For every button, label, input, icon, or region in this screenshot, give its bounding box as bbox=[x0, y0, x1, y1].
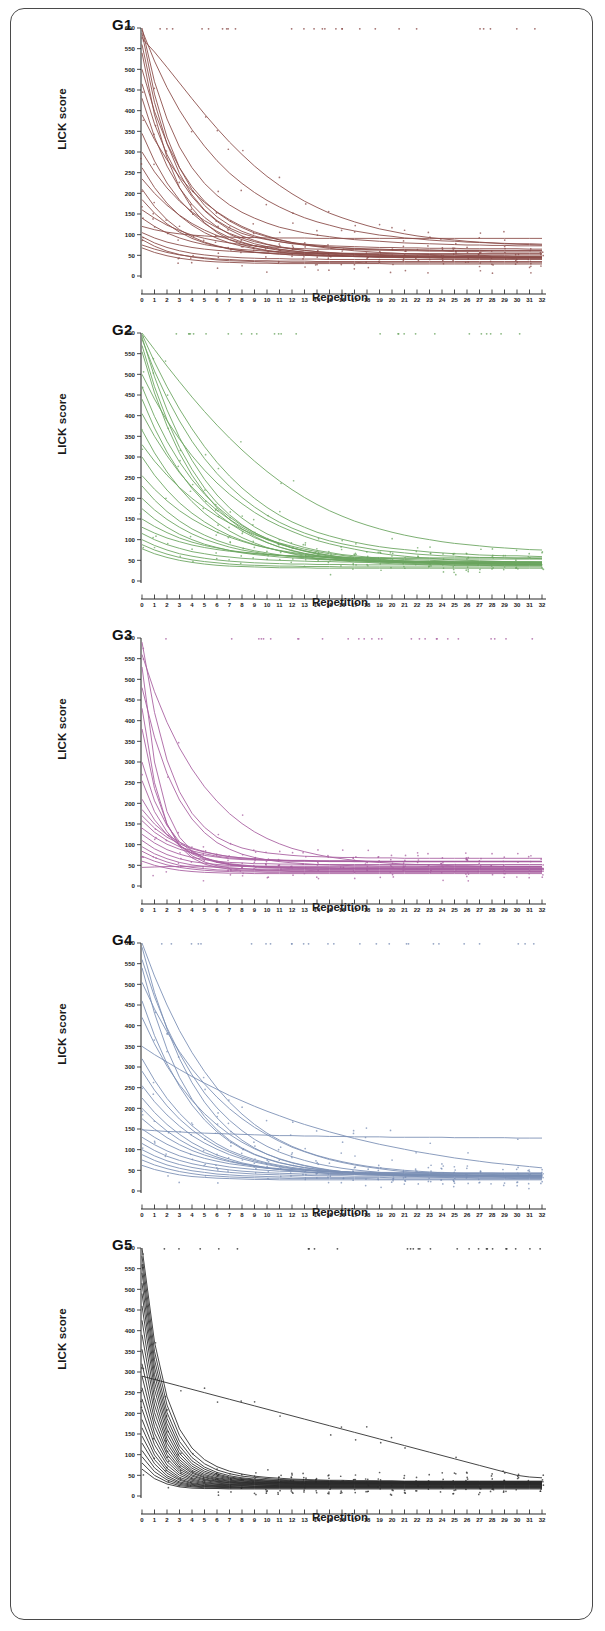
svg-text:600: 600 bbox=[125, 1244, 136, 1251]
x-ticks: 0123456789101112131415161718192021222324… bbox=[140, 1205, 546, 1219]
svg-text:150: 150 bbox=[125, 515, 136, 522]
svg-text:14: 14 bbox=[314, 1517, 321, 1523]
svg-text:10: 10 bbox=[264, 602, 271, 608]
svg-text:30: 30 bbox=[514, 1517, 521, 1523]
svg-text:200: 200 bbox=[125, 1105, 136, 1112]
svg-text:300: 300 bbox=[125, 1368, 136, 1375]
series-line bbox=[142, 968, 542, 1176]
svg-text:0: 0 bbox=[140, 297, 144, 303]
svg-text:4: 4 bbox=[190, 1517, 194, 1523]
svg-text:250: 250 bbox=[125, 779, 136, 786]
svg-text:400: 400 bbox=[125, 1327, 136, 1334]
plot-area-g2: 0501001502002503003504004505005506000123… bbox=[30, 313, 575, 618]
svg-text:400: 400 bbox=[125, 1022, 136, 1029]
panel-g1: LICK scoreG1Repetition050100150200250300… bbox=[30, 8, 575, 313]
svg-text:12: 12 bbox=[289, 907, 296, 913]
svg-text:16: 16 bbox=[339, 602, 346, 608]
panel-g5: LICK scoreG5Repetition050100150200250300… bbox=[30, 1228, 575, 1533]
series-line bbox=[142, 943, 542, 1175]
fit-curves bbox=[142, 1248, 542, 1489]
series-line bbox=[142, 98, 542, 257]
svg-text:31: 31 bbox=[526, 1517, 533, 1523]
svg-text:20: 20 bbox=[389, 297, 396, 303]
svg-text:29: 29 bbox=[501, 602, 508, 608]
svg-text:0: 0 bbox=[140, 1517, 144, 1523]
svg-text:19: 19 bbox=[376, 907, 383, 913]
fit-curves bbox=[142, 943, 542, 1180]
svg-text:18: 18 bbox=[364, 1517, 371, 1523]
svg-text:17: 17 bbox=[351, 297, 358, 303]
series-line bbox=[142, 28, 542, 246]
svg-text:250: 250 bbox=[125, 169, 136, 176]
svg-text:26: 26 bbox=[464, 297, 471, 303]
svg-text:400: 400 bbox=[125, 717, 136, 724]
series-line bbox=[142, 1046, 542, 1168]
svg-text:350: 350 bbox=[125, 1043, 136, 1050]
svg-text:23: 23 bbox=[426, 297, 433, 303]
series-line bbox=[142, 1265, 542, 1482]
series-line bbox=[142, 352, 542, 564]
svg-text:12: 12 bbox=[289, 297, 296, 303]
series-line bbox=[142, 708, 542, 871]
svg-text:250: 250 bbox=[125, 1389, 136, 1396]
svg-text:16: 16 bbox=[339, 297, 346, 303]
svg-text:550: 550 bbox=[125, 350, 136, 357]
svg-text:21: 21 bbox=[401, 907, 408, 913]
svg-text:350: 350 bbox=[125, 433, 136, 440]
svg-text:3: 3 bbox=[178, 1212, 182, 1218]
svg-text:17: 17 bbox=[351, 602, 358, 608]
svg-text:22: 22 bbox=[414, 1517, 421, 1523]
svg-text:15: 15 bbox=[326, 1212, 333, 1218]
svg-text:21: 21 bbox=[401, 1212, 408, 1218]
series-line bbox=[142, 1001, 542, 1176]
svg-text:29: 29 bbox=[501, 907, 508, 913]
y-ticks: 050100150200250300350400450500550600 bbox=[125, 329, 141, 584]
svg-text:8: 8 bbox=[240, 297, 244, 303]
svg-text:11: 11 bbox=[276, 907, 283, 913]
svg-text:15: 15 bbox=[326, 602, 333, 608]
svg-text:0: 0 bbox=[140, 602, 144, 608]
svg-text:29: 29 bbox=[501, 297, 508, 303]
series-line bbox=[142, 816, 542, 861]
svg-text:550: 550 bbox=[125, 655, 136, 662]
svg-text:2: 2 bbox=[165, 1517, 169, 1523]
svg-text:1: 1 bbox=[153, 1517, 157, 1523]
svg-text:6: 6 bbox=[215, 1517, 219, 1523]
svg-text:500: 500 bbox=[125, 1286, 136, 1293]
svg-text:100: 100 bbox=[125, 841, 136, 848]
svg-text:24: 24 bbox=[439, 1517, 446, 1523]
svg-text:500: 500 bbox=[125, 371, 136, 378]
data-points bbox=[140, 1248, 544, 1496]
svg-text:25: 25 bbox=[451, 297, 458, 303]
svg-text:100: 100 bbox=[125, 231, 136, 238]
svg-text:6: 6 bbox=[215, 297, 219, 303]
svg-text:12: 12 bbox=[289, 1212, 296, 1218]
svg-text:350: 350 bbox=[125, 128, 136, 135]
svg-text:13: 13 bbox=[301, 1212, 308, 1218]
svg-text:350: 350 bbox=[125, 1348, 136, 1355]
svg-text:32: 32 bbox=[539, 297, 546, 303]
series-line bbox=[142, 1273, 542, 1482]
svg-text:17: 17 bbox=[351, 1517, 358, 1523]
svg-text:13: 13 bbox=[301, 602, 308, 608]
svg-text:22: 22 bbox=[414, 907, 421, 913]
series-line bbox=[142, 1256, 542, 1481]
plot-area-g4: 0501001502002503003504004505005506000123… bbox=[30, 923, 575, 1228]
svg-text:100: 100 bbox=[125, 1451, 136, 1458]
svg-text:1: 1 bbox=[153, 297, 157, 303]
svg-text:2: 2 bbox=[165, 1212, 169, 1218]
svg-text:16: 16 bbox=[339, 1517, 346, 1523]
svg-text:13: 13 bbox=[301, 1517, 308, 1523]
svg-text:8: 8 bbox=[240, 907, 244, 913]
svg-text:22: 22 bbox=[414, 297, 421, 303]
svg-text:30: 30 bbox=[514, 602, 521, 608]
series-line bbox=[142, 1335, 542, 1483]
series-line bbox=[142, 821, 542, 862]
series-line bbox=[142, 655, 542, 867]
svg-text:0: 0 bbox=[140, 907, 144, 913]
svg-text:550: 550 bbox=[125, 1265, 136, 1272]
svg-text:2: 2 bbox=[165, 297, 169, 303]
series-line bbox=[142, 115, 542, 256]
svg-text:100: 100 bbox=[125, 536, 136, 543]
svg-text:31: 31 bbox=[526, 297, 533, 303]
